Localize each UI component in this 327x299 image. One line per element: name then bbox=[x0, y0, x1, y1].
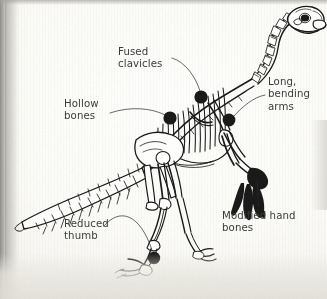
marker-fused-clavicles bbox=[194, 90, 207, 103]
leader-reduced-thumb bbox=[104, 216, 152, 250]
label-fused-clavicles: Fused clavicles bbox=[118, 46, 162, 71]
book-page: .ink { fill:none; stroke:#1a1a1a; stroke… bbox=[0, 0, 327, 299]
leader-fused-clavicles bbox=[172, 58, 200, 91]
label-hollow-bones: Hollow bones bbox=[64, 98, 99, 123]
marker-long-bending-arms bbox=[223, 114, 236, 127]
label-modified-hand-bones: Modified hand bones bbox=[222, 210, 296, 235]
leader-long-bending-arms bbox=[234, 95, 265, 116]
label-long-bending-arms: Long, bending arms bbox=[268, 76, 310, 113]
leader-hollow-bones bbox=[110, 109, 165, 115]
label-reduced-thumb: Reduced thumb bbox=[64, 218, 109, 243]
marker-hollow-bones bbox=[163, 111, 176, 124]
page-bottom-shadow bbox=[0, 253, 327, 299]
skull-group bbox=[288, 6, 326, 33]
